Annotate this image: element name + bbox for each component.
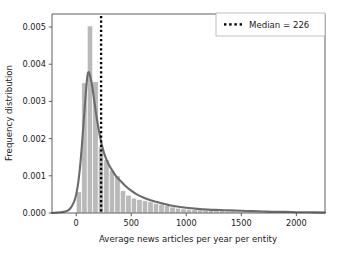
histogram-bar [87,26,93,213]
y-tick-label: 0.000 [23,208,46,218]
histogram-bar [164,206,170,213]
chart-figure: 0500100015002000 0.0000.0010.0020.0030.0… [0,0,340,256]
histogram-bar [186,209,192,213]
y-tick-label: 0.003 [23,96,46,106]
x-tick-label: 1000 [176,218,197,228]
histogram-bar [170,207,176,213]
histogram-bar [109,170,115,213]
x-tick-label: 500 [123,218,139,228]
histogram-bar [142,201,148,213]
histogram-bar [159,205,165,213]
x-axis-title: Average news articles per year per entit… [99,234,277,244]
y-tick-label: 0.004 [23,59,46,69]
legend-entry-label: Median = 226 [249,20,309,30]
histogram-bar [115,176,121,213]
histogram-bar [98,147,104,213]
x-tick-label: 1500 [231,218,252,228]
y-tick-label: 0.005 [23,22,46,32]
y-axis-title: Frequency distribution [4,65,14,161]
histogram-kde-plot: 0500100015002000 0.0000.0010.0020.0030.0… [0,0,340,256]
histogram-bar [148,202,154,213]
histogram-bar [175,208,181,213]
histogram-bar [120,191,126,213]
histogram-bar [192,210,198,213]
histogram-bar [137,200,143,213]
histogram-bar [104,160,110,213]
histogram-bar [153,203,159,213]
y-tick-label: 0.002 [23,134,46,144]
x-tick-label: 2000 [286,218,307,228]
y-tick-label: 0.001 [23,171,46,181]
chart-legend[interactable]: Median = 226 [216,13,325,36]
x-tick-label: 0 [74,218,79,228]
histogram-bar [131,198,137,213]
histogram-bar [126,195,132,213]
histogram-bar [181,209,187,213]
